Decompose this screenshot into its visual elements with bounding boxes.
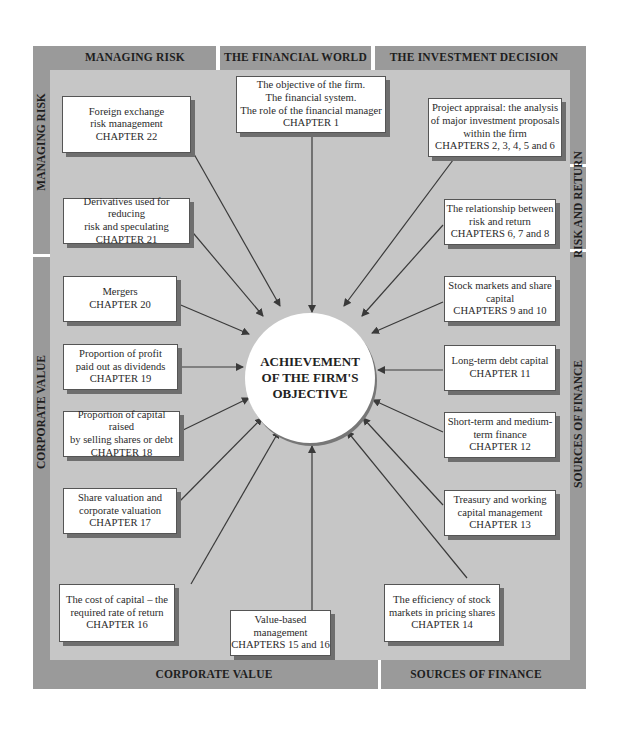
topic-box-project-appraisal: Project appraisal: the analysis of major…: [428, 98, 562, 157]
topic-box-financial-world: The objective of the firm. The financial…: [236, 76, 386, 133]
topic-box-mergers: Mergers CHAPTER 20: [63, 276, 177, 322]
topic-text: capital: [486, 293, 514, 306]
topic-box-short-term-finance: Short-term and medium- term finance CHAP…: [444, 412, 556, 458]
chapter-ref: CHAPTERS 9 and 10: [453, 305, 546, 318]
topic-text: Treasury and working: [453, 494, 546, 507]
topic-text: The relationship between: [446, 203, 553, 216]
topic-text: paid out as dividends: [76, 361, 166, 374]
chapter-ref: CHAPTER 14: [411, 619, 473, 632]
topic-text: Mergers: [102, 286, 137, 299]
chapter-ref: CHAPTER 18: [91, 447, 153, 460]
topic-text: Short-term and medium-: [448, 416, 553, 429]
chapter-ref: CHAPTERS 15 and 16: [231, 639, 330, 652]
topic-text: capital management: [457, 507, 542, 520]
chapter-ref: CHAPTER 1: [283, 117, 339, 130]
topic-text: Long-term debt capital: [451, 355, 548, 368]
chapter-ref: CHAPTER 17: [89, 517, 151, 530]
topic-text: corporate valuation: [79, 505, 161, 518]
topic-text: of major investment proposals: [431, 115, 560, 128]
topic-text: Value-based management: [231, 614, 330, 639]
topic-box-value-based-management: Value-based management CHAPTERS 15 and 1…: [230, 610, 331, 656]
topic-box-capital-structure: Proportion of capital raised by selling …: [63, 411, 180, 457]
chapter-ref: CHAPTER 19: [90, 373, 152, 386]
chapter-ref: CHAPTER 12: [469, 441, 531, 454]
chapter-ref: CHAPTER 22: [96, 131, 158, 144]
topic-box-derivatives: Derivatives used for reducing risk and s…: [63, 198, 190, 244]
topic-box-stock-markets: Stock markets and share capital CHAPTERS…: [444, 276, 556, 322]
chapter-ref: CHAPTER 11: [469, 368, 530, 381]
topic-text: Project appraisal: the analysis: [432, 102, 558, 115]
chapter-ref: CHAPTERS 2, 3, 4, 5 and 6: [435, 140, 555, 153]
topic-text: risk and return: [469, 216, 531, 229]
topic-text: Proportion of capital raised: [64, 409, 179, 434]
topic-box-treasury: Treasury and working capital management …: [444, 490, 556, 536]
topic-text: required rate of return: [70, 607, 163, 620]
central-objective-text: OF THE FIRM'S: [262, 370, 359, 386]
topic-text: Stock markets and share: [448, 280, 551, 293]
topic-text: The role of the financial manager: [240, 105, 381, 118]
topic-text: Derivatives used for reducing: [64, 196, 189, 221]
topic-text: within the firm: [463, 128, 527, 141]
chapter-ref: CHAPTER 13: [469, 519, 531, 532]
central-objective-text: ACHIEVEMENT: [260, 354, 360, 370]
topic-text: The objective of the firm.: [257, 79, 366, 92]
topic-text: The efficiency of stock: [393, 594, 491, 607]
diagram: MANAGING RISK THE FINANCIAL WORLD THE IN…: [0, 0, 618, 731]
topic-text: by selling shares or debt: [70, 434, 173, 447]
chapter-ref: CHAPTER 16: [86, 619, 148, 632]
topic-text: Proportion of profit: [79, 348, 162, 361]
central-objective-circle: ACHIEVEMENT OF THE FIRM'S OBJECTIVE: [245, 313, 375, 443]
topic-text: markets in pricing shares: [389, 607, 495, 620]
topic-box-forex: Foreign exchange risk management CHAPTER…: [62, 96, 191, 153]
topic-box-risk-return: The relationship between risk and return…: [444, 199, 556, 245]
central-objective-text: OBJECTIVE: [272, 386, 347, 402]
topic-box-dividends: Proportion of profit paid out as dividen…: [63, 344, 178, 390]
topic-text: The cost of capital – the: [66, 594, 168, 607]
chapter-ref: CHAPTERS 6, 7 and 8: [451, 228, 550, 241]
topic-box-long-term-debt: Long-term debt capital CHAPTER 11: [444, 345, 556, 391]
topic-box-cost-of-capital: The cost of capital – the required rate …: [59, 584, 175, 642]
topic-box-share-valuation: Share valuation and corporate valuation …: [63, 488, 177, 534]
topic-text: risk management: [90, 118, 163, 131]
topic-text: The financial system.: [266, 92, 357, 105]
topic-text: risk and speculating: [84, 221, 169, 234]
chapter-ref: CHAPTER 20: [89, 299, 151, 312]
topic-text: Share valuation and: [78, 492, 162, 505]
topic-text: Foreign exchange: [89, 106, 165, 119]
topic-text: term finance: [473, 429, 526, 442]
topic-box-market-efficiency: The efficiency of stock markets in prici…: [384, 584, 500, 642]
chapter-ref: CHAPTER 21: [96, 234, 158, 247]
